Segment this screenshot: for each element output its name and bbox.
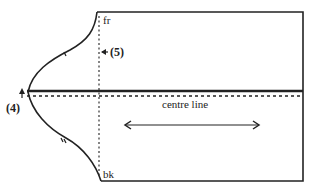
marker-5-label: (5) [110,45,124,59]
pattern-outline [97,12,303,181]
marker-5-arrowhead-icon [101,49,106,55]
marker-4-arrowhead-icon [19,88,25,94]
back-notch-1 [61,138,63,142]
pattern-diagram: fr bk centre line (5) (4) [0,0,319,192]
back-notch-2 [64,139,66,143]
front-label: fr [103,14,111,26]
marker-4-label: (4) [6,101,20,115]
centre-line-label: centre line [162,98,208,110]
back-label: bk [103,168,115,180]
